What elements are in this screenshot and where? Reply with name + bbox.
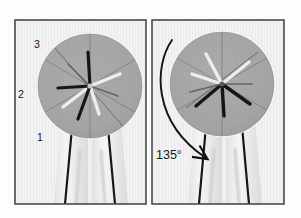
axis-label-1: 1 [37, 131, 43, 143]
rotation-angle-label: 135° [156, 148, 182, 162]
figure-canvas: 3 2 1 135° [0, 0, 301, 218]
right-panel [152, 20, 284, 204]
left-star-center [87, 83, 92, 88]
axis-label-2: 2 [18, 88, 24, 100]
figure-container: 3 2 1 135° [0, 0, 301, 218]
axis-label-3: 3 [34, 38, 40, 50]
right-star-center [219, 81, 224, 86]
